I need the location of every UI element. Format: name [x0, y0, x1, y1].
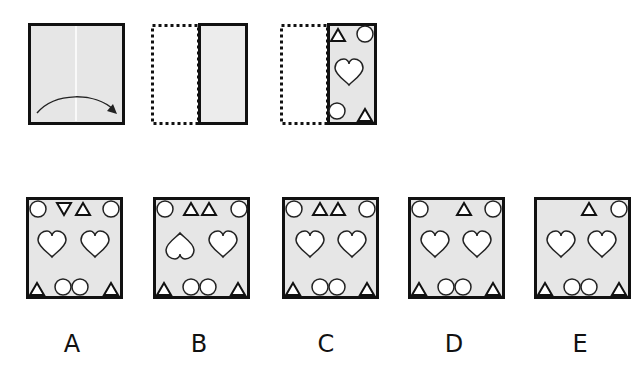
- circle-icon: [357, 26, 373, 42]
- option-b-label[interactable]: B: [179, 330, 219, 358]
- option-b[interactable]: [155, 199, 249, 298]
- option-e-label[interactable]: E: [560, 330, 600, 358]
- circle-icon: [329, 103, 345, 119]
- step-3-paper: [282, 25, 376, 124]
- step-2-paper: [153, 25, 247, 124]
- step-1-paper: [30, 25, 124, 124]
- option-c[interactable]: [284, 199, 378, 298]
- option-d-label[interactable]: D: [434, 330, 474, 358]
- option-c-label[interactable]: C: [306, 330, 346, 358]
- option-a-label[interactable]: A: [52, 330, 92, 358]
- option-a[interactable]: [28, 199, 122, 298]
- option-d[interactable]: [410, 199, 504, 298]
- option-e[interactable]: [536, 199, 630, 298]
